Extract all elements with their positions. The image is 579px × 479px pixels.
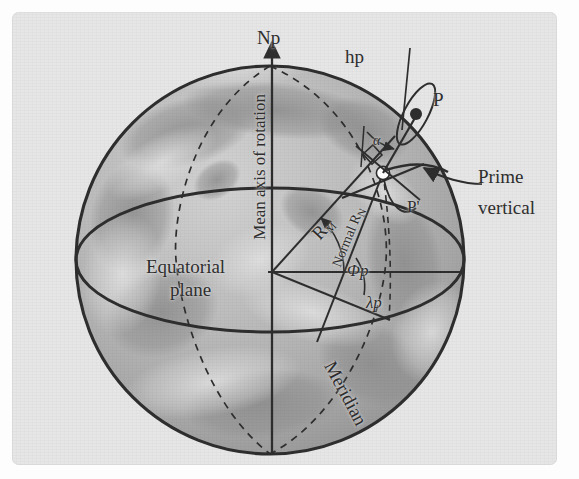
label-ellipsoid-height: hp [345,47,364,67]
geodesy-diagram-svg [12,12,557,465]
label-deflection-angle: α [373,134,380,149]
cropped-caption-above: · · · [300,0,560,4]
figure-page: · · · [0,0,579,479]
label-point-p-prime: P' [407,198,420,216]
label-latitude: Φp [347,262,368,280]
label-longitude: λp [366,294,382,312]
point-p-marker [410,108,422,120]
label-equatorial-plane-line1: Equatorial [146,257,225,277]
label-point-p: P [433,90,444,110]
earth-texture [74,32,486,446]
hp-leader-line [402,48,410,130]
label-prime-vertical-line1: Prime [478,167,523,187]
figure-panel: Np hp P α P' Prime vertical Equatorial p… [12,12,557,465]
label-equatorial-plane-line2: plane [170,280,211,300]
label-mean-axis-of-rotation: Mean axis of rotation [251,12,269,240]
label-prime-vertical-line2: vertical [478,198,535,218]
globe-body [74,32,486,454]
